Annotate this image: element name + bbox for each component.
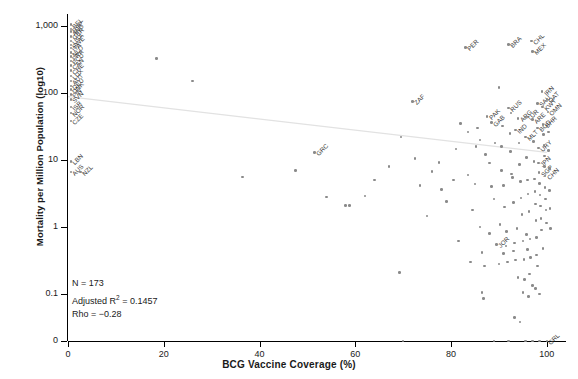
data-point (524, 340, 527, 343)
data-point (543, 165, 546, 168)
data-point (506, 261, 509, 264)
data-point (522, 240, 525, 243)
data-point (521, 213, 524, 216)
bcg-mortality-scatter-figure: Mortality per Million Population (log10)… (0, 0, 578, 379)
data-point (438, 161, 441, 164)
data-point (475, 145, 478, 148)
data-point (517, 276, 520, 279)
y-tick-label: 10 (0, 154, 58, 164)
data-point (525, 233, 528, 236)
y-tick (61, 93, 67, 94)
data-point (490, 185, 493, 188)
data-point (535, 254, 538, 257)
data-point (511, 176, 514, 179)
data-point (519, 180, 522, 183)
data-point (549, 207, 552, 210)
data-point (502, 184, 505, 187)
data-point (455, 148, 458, 151)
data-point (534, 190, 537, 193)
data-point (484, 153, 487, 156)
data-point (414, 157, 417, 160)
data-point (547, 149, 550, 152)
data-point (542, 247, 545, 250)
data-point (500, 169, 503, 172)
data-point (535, 236, 538, 239)
data-point (467, 174, 470, 177)
data-point (388, 165, 391, 168)
x-tick (355, 342, 356, 347)
data-point (534, 287, 537, 290)
data-point (522, 291, 525, 294)
data-point (344, 204, 347, 207)
x-tick (68, 342, 69, 347)
data-point (467, 131, 470, 134)
data-point (452, 179, 455, 182)
data-point (523, 278, 526, 281)
data-point (548, 189, 551, 192)
data-point (503, 206, 506, 209)
y-tick (61, 294, 67, 295)
data-point-label: URY (538, 139, 552, 153)
data-point (528, 210, 531, 213)
data-point (548, 167, 551, 170)
data-point-label: ZAF (413, 93, 427, 107)
x-tick-label: 60 (335, 349, 375, 359)
x-axis-title: BCG Vaccine Coverage (%) (0, 359, 578, 370)
data-point (431, 170, 434, 173)
data-point (488, 232, 491, 235)
data-point (505, 245, 508, 248)
data-point (499, 223, 502, 226)
data-point (445, 200, 448, 203)
y-tick-label: 0.1 (0, 288, 58, 298)
data-point (479, 226, 482, 229)
data-point (533, 178, 536, 181)
data-point (514, 259, 517, 262)
y-tick-label: 1,000 (0, 20, 58, 30)
y-tick (61, 26, 67, 27)
x-axis-line (68, 341, 566, 342)
data-point (481, 251, 484, 254)
statistics-annotation: N = 173 Adjusted R2 = 0.1457 Rho = −0.28 (72, 277, 157, 322)
x-tick-label: 40 (240, 349, 280, 359)
data-point (525, 156, 528, 159)
y-tick-label: 1 (0, 221, 58, 231)
data-point (440, 188, 443, 191)
data-point (498, 263, 501, 266)
data-point (519, 321, 522, 324)
data-point (542, 133, 545, 136)
data-point (529, 238, 532, 241)
data-point (509, 150, 512, 153)
data-point (419, 184, 422, 187)
data-point (545, 222, 548, 225)
data-point (549, 227, 552, 230)
data-point (325, 196, 328, 199)
rho-value: Rho = −0.28 (72, 308, 157, 322)
data-point (494, 142, 497, 145)
data-point-label: GRL (547, 332, 561, 346)
data-point (294, 169, 297, 172)
adjusted-r2-value: Adjusted R2 = 0.1457 (72, 291, 157, 309)
data-point (400, 136, 403, 139)
data-point (523, 258, 526, 261)
data-point (510, 112, 513, 115)
data-point (540, 217, 543, 220)
data-point (513, 316, 516, 319)
data-point (498, 86, 501, 89)
data-point (527, 193, 530, 196)
data-point (471, 209, 474, 212)
data-point-label: JOR (497, 235, 511, 249)
data-point (533, 160, 536, 163)
x-tick (260, 342, 261, 347)
data-point (527, 295, 530, 298)
y-tick (61, 160, 67, 161)
data-point (547, 131, 550, 134)
data-point (500, 145, 503, 148)
data-point (531, 284, 534, 287)
data-point (513, 242, 516, 245)
data-point (364, 195, 367, 198)
data-point (469, 261, 472, 264)
y-tick (61, 227, 67, 228)
data-point (534, 203, 537, 206)
x-tick (451, 342, 452, 347)
data-point (535, 219, 538, 222)
